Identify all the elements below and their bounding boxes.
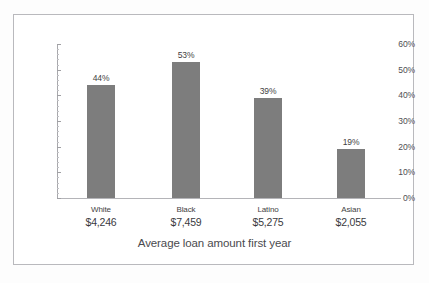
y-minor-tick <box>57 65 59 66</box>
category-label: Asian <box>311 205 391 214</box>
bar <box>172 62 200 198</box>
y-tick-label: 10% <box>381 168 415 177</box>
y-major-tick <box>57 44 61 45</box>
x-axis-title: Average loan amount first year <box>14 237 415 249</box>
y-minor-tick <box>57 100 59 101</box>
y-minor-tick <box>57 183 59 184</box>
y-minor-tick <box>57 85 59 86</box>
category-sublabel: $7,459 <box>146 216 226 228</box>
y-tick-label: 40% <box>381 91 415 100</box>
y-minor-tick <box>57 162 59 163</box>
y-major-tick <box>57 70 61 71</box>
bar-value-label: 39% <box>246 86 290 96</box>
x-axis-line <box>57 198 401 199</box>
y-minor-tick <box>57 80 59 81</box>
y-tick-label: 50% <box>381 65 415 74</box>
y-minor-tick <box>57 90 59 91</box>
y-minor-tick <box>57 177 59 178</box>
category-label: White <box>61 205 141 214</box>
category-sublabel: $4,246 <box>61 216 141 228</box>
bar <box>87 85 115 198</box>
y-minor-tick <box>57 59 59 60</box>
y-major-tick <box>57 147 61 148</box>
category-sublabel: $2,055 <box>311 216 391 228</box>
y-minor-tick <box>57 152 59 153</box>
bar <box>337 149 365 198</box>
category-sublabel: $5,275 <box>228 216 308 228</box>
y-minor-tick <box>57 167 59 168</box>
y-minor-tick <box>57 106 59 107</box>
y-tick-label: 20% <box>381 142 415 151</box>
y-minor-tick <box>57 188 59 189</box>
y-major-tick <box>57 95 61 96</box>
y-major-tick <box>57 121 61 122</box>
y-major-tick <box>57 172 61 173</box>
y-minor-tick <box>57 49 59 50</box>
y-minor-tick <box>57 111 59 112</box>
bar-value-label: 44% <box>79 73 123 83</box>
y-minor-tick <box>57 54 59 55</box>
y-tick-label: 0% <box>381 194 415 203</box>
y-tick-label: 60% <box>381 40 415 49</box>
y-minor-tick <box>57 136 59 137</box>
y-minor-tick <box>57 126 59 127</box>
plot-area: 60%50%40%30%20%10%0% 44%53%39%19% White$… <box>14 15 415 266</box>
category-label: Latino <box>228 205 308 214</box>
y-major-tick <box>57 198 61 199</box>
bar <box>254 98 282 198</box>
y-minor-tick <box>57 116 59 117</box>
bar-value-label: 53% <box>164 50 208 60</box>
y-minor-tick <box>57 142 59 143</box>
y-minor-tick <box>57 157 59 158</box>
y-minor-tick <box>57 193 59 194</box>
y-tick-label: 30% <box>381 117 415 126</box>
y-minor-tick <box>57 75 59 76</box>
chart-frame: 60%50%40%30%20%10%0% 44%53%39%19% White$… <box>13 14 414 265</box>
bar-value-label: 19% <box>329 137 373 147</box>
category-label: Black <box>146 205 226 214</box>
y-minor-tick <box>57 131 59 132</box>
